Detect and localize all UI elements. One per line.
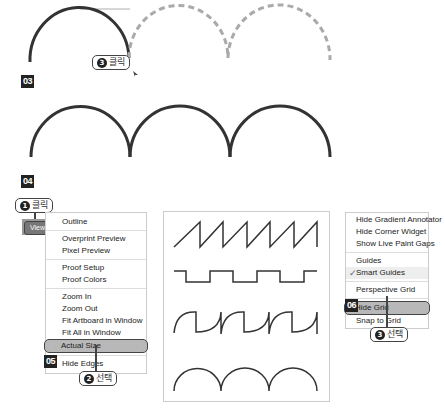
menu-separator <box>46 230 146 231</box>
menu-item-guides[interactable]: Guides <box>346 255 428 267</box>
menu-separator <box>346 252 428 253</box>
menu-item-smart-guides[interactable]: ✓Smart Guides <box>346 267 428 279</box>
menu-item-show-live-paint-gaps[interactable]: Show Live Paint Gaps <box>346 238 428 250</box>
menu-item-zoom-in[interactable]: Zoom In <box>46 291 146 303</box>
menu-item-hide-gradient-annotator[interactable]: Hide Gradient Annotator <box>346 214 428 226</box>
menu-item-overprint-preview[interactable]: Overprint Preview <box>46 233 146 245</box>
menu-item-fit-artboard[interactable]: Fit Artboard in Window <box>46 315 146 327</box>
callout-select-3: 3선택 <box>370 327 408 342</box>
callout-line <box>95 345 97 372</box>
menu-separator <box>46 288 146 289</box>
menu-item-proof-colors[interactable]: Proof Colors <box>46 274 146 286</box>
menu-item-fit-all[interactable]: Fit All in Window <box>46 327 146 339</box>
menu-item-zoom-out[interactable]: Zoom Out <box>46 303 146 315</box>
callout-select-2: 2선택 <box>79 371 117 386</box>
step-label-04: 04 <box>21 175 34 188</box>
step-label-03: 03 <box>21 75 34 88</box>
menu-separator <box>46 259 146 260</box>
waveform-illustration <box>164 212 329 401</box>
menu-item-hide-corner-widget[interactable]: Hide Corner Widget <box>346 226 428 238</box>
arc-illustration-03 <box>0 0 445 200</box>
callout-click-3: 3클릭 <box>92 55 130 70</box>
checkmark-icon: ✓ <box>349 267 357 279</box>
menu-item-proof-setup[interactable]: Proof Setup <box>46 262 146 274</box>
waveform-preview-box <box>163 211 330 402</box>
menu-item-outline[interactable]: Outline <box>46 216 146 228</box>
callout-line <box>386 296 388 328</box>
callout-click-1: 1클릭 <box>15 198 53 213</box>
step-label-05: 05 <box>44 355 57 368</box>
menu-item-perspective-grid[interactable]: Perspective Grid <box>346 284 428 296</box>
cursor-icon <box>133 62 139 68</box>
step-label-06: 06 <box>345 299 358 312</box>
menu-item-pixel-preview[interactable]: Pixel Preview <box>46 245 146 257</box>
menu-separator <box>346 281 428 282</box>
